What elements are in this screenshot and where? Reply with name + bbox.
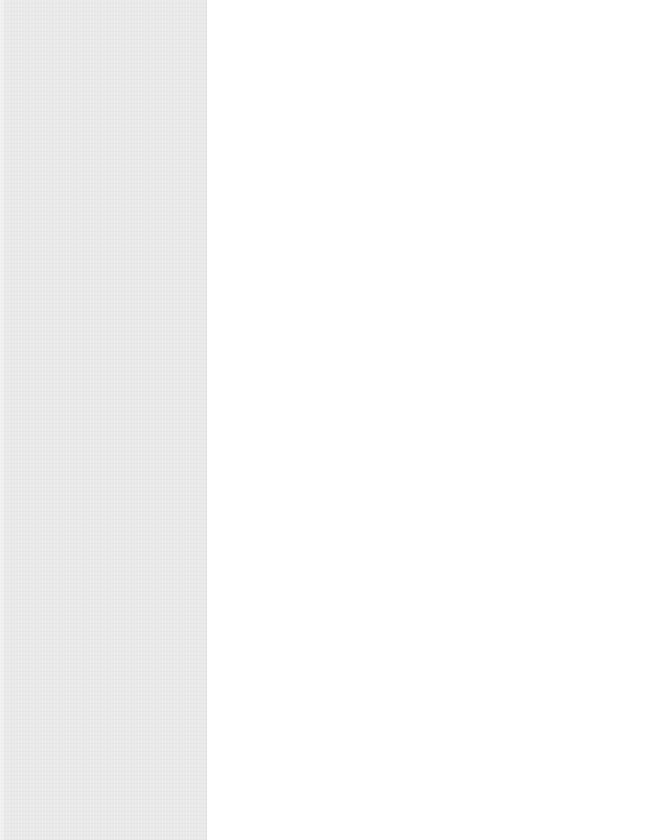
main-content-area — [207, 0, 667, 840]
panel-edge-highlight — [0, 0, 4, 840]
page-root — [0, 0, 667, 840]
left-side-panel — [0, 0, 207, 840]
